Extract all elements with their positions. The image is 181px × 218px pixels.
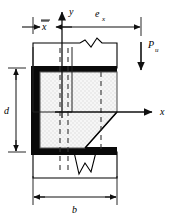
upper-member	[33, 38, 117, 68]
x-bar-label: x	[41, 21, 47, 32]
x-axis-label: x	[159, 106, 165, 117]
load-arrow-pu: P u	[141, 39, 159, 70]
dimension-b: b	[33, 176, 117, 215]
pu-label-base: P	[147, 39, 154, 50]
dimension-x-bar: x	[22, 17, 72, 34]
cross-section-diagram: y x x e x P u d	[0, 0, 181, 218]
e-x-label-base: e	[95, 8, 100, 19]
pu-label-sub: u	[155, 46, 159, 54]
b-label: b	[72, 204, 77, 215]
figure-canvas: y x x e x P u d	[0, 0, 181, 218]
bracket-plate	[40, 72, 117, 148]
y-axis-label: y	[68, 6, 74, 17]
dimension-e-x: e x	[62, 8, 141, 36]
dimension-d: d	[4, 68, 26, 152]
lower-member	[33, 152, 117, 178]
e-x-label-sub: x	[101, 15, 106, 23]
d-label: d	[4, 105, 10, 116]
